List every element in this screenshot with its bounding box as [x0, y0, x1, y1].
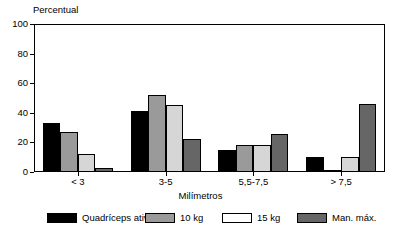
y-axis-tick-label: 40: [17, 107, 28, 118]
bar-group: [306, 24, 376, 172]
y-axis-tick-label: 100: [12, 18, 28, 29]
bar-group: [131, 24, 201, 172]
y-axis-tick-label: 60: [17, 77, 28, 88]
x-axis-tick-label: 3-5: [159, 176, 173, 188]
bar: [166, 105, 184, 172]
legend-swatch: [47, 213, 77, 223]
y-axis-title: Percentual: [33, 4, 78, 15]
x-axis-title: Milímetros: [0, 190, 401, 202]
bar-group: [218, 24, 288, 172]
legend-item[interactable]: Quadríceps ativo: [47, 210, 154, 226]
plot-area: [34, 24, 385, 172]
bar: [359, 104, 377, 172]
bar: [236, 145, 254, 172]
y-axis-tick-label: 80: [17, 48, 28, 59]
x-axis-tick-label: < 3: [71, 176, 84, 188]
legend-swatch: [222, 213, 252, 223]
bar: [253, 145, 271, 172]
bar: [78, 154, 96, 172]
bar-group: [43, 24, 113, 172]
y-axis-tick-label: 0: [23, 166, 28, 177]
bar: [306, 157, 324, 172]
x-axis-tick-label: 5,5-7,5: [239, 176, 269, 188]
bar: [271, 134, 289, 172]
bar-chart-figure: Percentual 020406080100 < 33-55,5-7,5> 7…: [0, 0, 401, 239]
legend-item[interactable]: 15 kg: [222, 210, 280, 226]
bar: [341, 157, 359, 172]
bars-container: [34, 24, 385, 172]
bar: [131, 111, 149, 172]
bar: [183, 139, 201, 172]
legend-label: 10 kg: [180, 212, 203, 224]
legend-label: Man. máx.: [332, 212, 376, 224]
bar: [43, 123, 61, 172]
legend-swatch: [145, 213, 175, 223]
legend-swatch: [297, 213, 327, 223]
bar: [218, 150, 236, 172]
chart-legend: Quadríceps ativo10 kg15 kgMan. máx.: [0, 210, 401, 230]
y-axis-tick-group: 020406080100: [0, 24, 34, 172]
legend-item[interactable]: Man. máx.: [297, 210, 376, 226]
bar: [60, 132, 78, 172]
legend-label: 15 kg: [257, 212, 280, 224]
legend-label: Quadríceps ativo: [82, 212, 154, 224]
x-axis-tick-label: > 7,5: [330, 176, 351, 188]
legend-item[interactable]: 10 kg: [145, 210, 203, 226]
bar: [148, 95, 166, 172]
y-axis-tick-label: 20: [17, 136, 28, 147]
